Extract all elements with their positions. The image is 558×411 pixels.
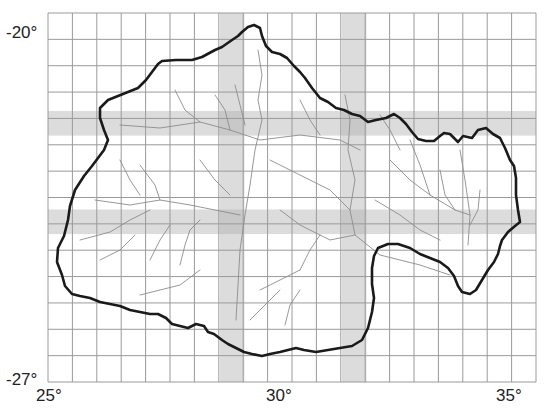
river-network — [80, 50, 480, 325]
basin-map — [0, 0, 558, 411]
grid-lines — [48, 13, 536, 382]
x-tick-label-left: 25° — [36, 386, 62, 406]
x-tick-label-middle: 30° — [266, 386, 292, 406]
band-overlap — [220, 111, 244, 136]
y-tick-label-bottom: -27° — [6, 370, 37, 390]
y-tick-label-top: -20° — [6, 23, 37, 43]
basin-boundary — [57, 25, 520, 356]
x-tick-label-right: 35° — [496, 386, 522, 406]
